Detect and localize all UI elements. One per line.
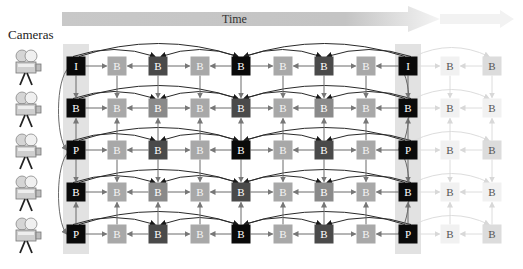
- svg-text:B: B: [113, 102, 120, 114]
- prediction-arc: [414, 174, 489, 183]
- frame-b-v5-t8: B: [357, 225, 376, 244]
- svg-text:I: I: [74, 60, 78, 72]
- svg-text:B: B: [196, 144, 203, 156]
- camera-icon: [16, 134, 41, 169]
- frame-b-v4-t1: B: [67, 183, 86, 202]
- svg-text:B: B: [446, 102, 453, 114]
- svg-text:B: B: [488, 186, 495, 198]
- svg-text:B: B: [237, 144, 244, 156]
- svg-text:B: B: [320, 144, 327, 156]
- svg-text:I: I: [406, 60, 410, 72]
- frame-b-v5-t10: B: [441, 225, 460, 244]
- frame-b-v5-t2: B: [108, 225, 127, 244]
- prediction-arc: [414, 216, 489, 225]
- frame-b-v4-t10: B: [441, 183, 460, 202]
- frame-b-v4-t8: B: [357, 183, 376, 202]
- svg-text:B: B: [237, 60, 244, 72]
- camera-icon: [16, 50, 41, 85]
- svg-text:B: B: [362, 144, 369, 156]
- svg-text:B: B: [362, 186, 369, 198]
- prediction-arc: [414, 90, 489, 99]
- frame-b-v3-t5: B: [232, 141, 251, 160]
- svg-text:B: B: [320, 228, 327, 240]
- svg-text:B: B: [488, 228, 495, 240]
- frame-b-v1-t11: B: [483, 57, 502, 76]
- svg-text:B: B: [446, 228, 453, 240]
- svg-text:P: P: [405, 228, 411, 240]
- frame-i-v1-t1: I: [67, 57, 86, 76]
- prediction-arc: [244, 50, 321, 57]
- svg-text:B: B: [154, 60, 161, 72]
- svg-text:B: B: [404, 102, 411, 114]
- svg-text:B: B: [113, 186, 120, 198]
- svg-text:B: B: [154, 228, 161, 240]
- svg-text:B: B: [404, 186, 411, 198]
- frame-b-v3-t11: B: [483, 141, 502, 160]
- svg-text:B: B: [196, 60, 203, 72]
- svg-text:B: B: [237, 102, 244, 114]
- svg-text:P: P: [73, 228, 79, 240]
- svg-text:P: P: [73, 144, 79, 156]
- frame-b-v2-t6: B: [274, 99, 293, 118]
- svg-text:B: B: [446, 144, 453, 156]
- frame-b-v4-t9: B: [399, 183, 418, 202]
- svg-text:B: B: [279, 228, 286, 240]
- frame-p-v5-t1: P: [67, 225, 86, 244]
- svg-text:B: B: [279, 60, 286, 72]
- svg-text:B: B: [154, 144, 161, 156]
- svg-text:B: B: [446, 60, 453, 72]
- frame-b-v2-t3: B: [149, 99, 168, 118]
- frame-b-v5-t3: B: [149, 225, 168, 244]
- frame-b-v1-t5: B: [232, 57, 251, 76]
- frame-b-v4-t5: B: [232, 183, 251, 202]
- svg-text:B: B: [488, 60, 495, 72]
- svg-text:B: B: [154, 102, 161, 114]
- svg-text:B: B: [362, 102, 369, 114]
- frame-b-v4-t2: B: [108, 183, 127, 202]
- frame-b-v5-t7: B: [315, 225, 334, 244]
- frame-b-v2-t11: B: [483, 99, 502, 118]
- svg-text:B: B: [72, 186, 79, 198]
- svg-text:B: B: [196, 102, 203, 114]
- svg-text:B: B: [113, 60, 120, 72]
- frame-b-v2-t8: B: [357, 99, 376, 118]
- frame-b-v2-t5: B: [232, 99, 251, 118]
- frame-b-v2-t2: B: [108, 99, 127, 118]
- svg-text:B: B: [279, 102, 286, 114]
- svg-text:B: B: [488, 102, 495, 114]
- svg-text:B: B: [279, 144, 286, 156]
- svg-text:B: B: [72, 102, 79, 114]
- svg-text:B: B: [196, 186, 203, 198]
- svg-text:P: P: [405, 144, 411, 156]
- frame-b-v1-t7: B: [315, 57, 334, 76]
- frame-b-v1-t8: B: [357, 57, 376, 76]
- svg-text:B: B: [362, 60, 369, 72]
- frame-b-v3-t2: B: [108, 141, 127, 160]
- camera-icon: [16, 92, 41, 127]
- frame-b-v1-t4: B: [191, 57, 210, 76]
- svg-text:B: B: [320, 60, 327, 72]
- svg-text:B: B: [362, 228, 369, 240]
- frame-b-v5-t4: B: [191, 225, 210, 244]
- camera-icon: [16, 218, 41, 253]
- frame-b-v1-t10: B: [441, 57, 460, 76]
- frame-b-v3-t10: B: [441, 141, 460, 160]
- frame-b-v4-t3: B: [149, 183, 168, 202]
- svg-text:B: B: [446, 186, 453, 198]
- frame-b-v2-t1: B: [67, 99, 86, 118]
- svg-text:B: B: [488, 144, 495, 156]
- svg-text:B: B: [113, 144, 120, 156]
- prediction-arc: [414, 132, 489, 141]
- frame-b-v5-t5: B: [232, 225, 251, 244]
- frame-b-v1-t6: B: [274, 57, 293, 76]
- frame-b-v4-t7: B: [315, 183, 334, 202]
- frame-b-v2-t10: B: [441, 99, 460, 118]
- frame-p-v5-t9: P: [399, 225, 418, 244]
- svg-text:B: B: [320, 102, 327, 114]
- svg-text:B: B: [237, 228, 244, 240]
- frame-b-v3-t3: B: [149, 141, 168, 160]
- frame-b-v5-t6: B: [274, 225, 293, 244]
- svg-text:B: B: [196, 228, 203, 240]
- prediction-arc: [414, 48, 489, 57]
- frame-b-v3-t4: B: [191, 141, 210, 160]
